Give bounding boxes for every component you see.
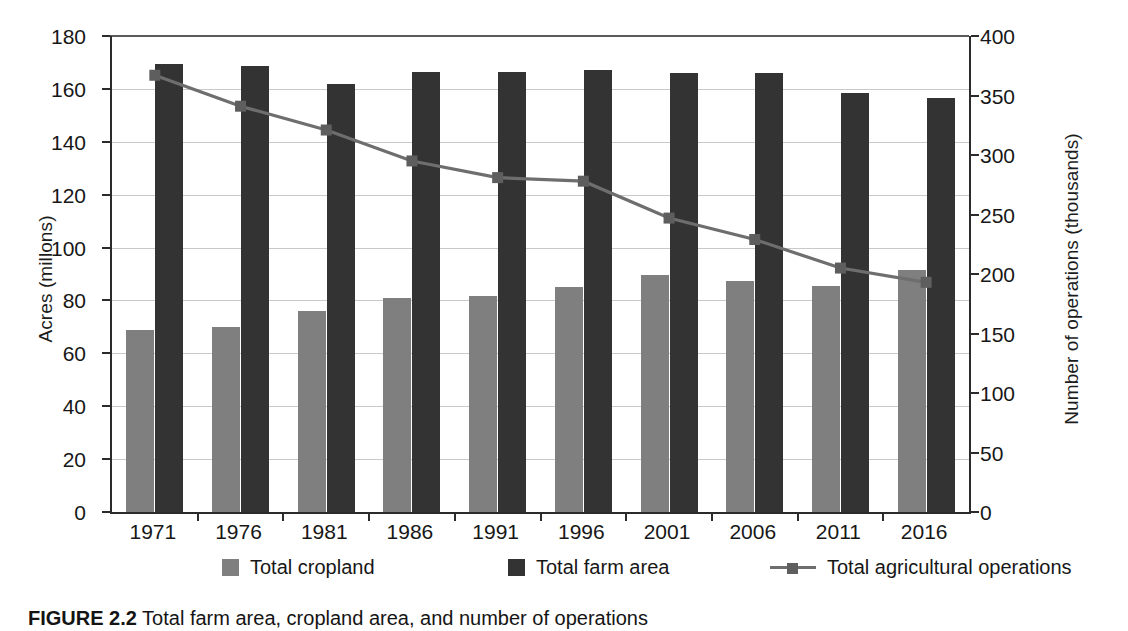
x-axis-label-2016: 2016 [869, 521, 979, 542]
legend-label-operations: Total agricultural operations [827, 557, 1072, 577]
x-tick-mark [625, 512, 627, 521]
bar-total-farm-area-1971 [155, 64, 183, 512]
bar-total-farm-area-1991 [498, 72, 526, 512]
x-tick-mark [711, 512, 713, 521]
left-tick-mark [102, 352, 110, 354]
bar-total-cropland-1971 [126, 330, 154, 512]
left-tick-mark [102, 194, 110, 196]
x-tick-mark [282, 512, 284, 521]
left-tick-label: 140 [0, 131, 86, 152]
bar-total-cropland-2001 [641, 275, 669, 512]
left-tick-mark [102, 405, 110, 407]
legend-label-cropland: Total cropland [250, 557, 375, 577]
left-tick-mark [102, 299, 110, 301]
bar-total-farm-area-2011 [841, 93, 869, 512]
right-tick-label: 50 [980, 442, 1040, 463]
bar-total-cropland-1981 [298, 311, 326, 512]
right-tick-mark [971, 392, 979, 394]
left-tick-mark [102, 458, 110, 460]
left-tick-mark [102, 141, 110, 143]
left-tick-label: 40 [0, 396, 86, 417]
bar-total-farm-area-1996 [584, 70, 612, 512]
right-tick-mark [971, 214, 979, 216]
legend-line-marker-icon-operations [770, 559, 816, 576]
bar-total-cropland-1986 [383, 298, 411, 512]
x-tick-mark [797, 512, 799, 521]
legend-swatch-icon-farm-area [508, 559, 525, 576]
left-tick-label: 180 [0, 26, 86, 47]
left-tick-mark [102, 511, 110, 513]
right-tick-mark [971, 154, 979, 156]
legend-item-total-cropland: Total cropland [222, 557, 375, 577]
x-tick-mark [882, 512, 884, 521]
right-axis-title: Number of operations (thousands) [1061, 79, 1083, 479]
right-tick-mark [971, 95, 979, 97]
left-tick-label: 160 [0, 78, 86, 99]
x-tick-mark [540, 512, 542, 521]
right-tick-label: 150 [980, 323, 1040, 344]
bar-total-cropland-2011 [812, 286, 840, 512]
right-tick-label: 100 [980, 383, 1040, 404]
right-tick-label: 400 [980, 26, 1040, 47]
chart-legend: Total cropland Total farm area Total agr… [110, 553, 970, 583]
right-tick-mark [971, 333, 979, 335]
bar-total-farm-area-2016 [927, 98, 955, 512]
right-tick-mark [971, 511, 979, 513]
left-tick-label: 60 [0, 343, 86, 364]
left-tick-mark [102, 88, 110, 90]
bar-total-cropland-1976 [212, 327, 240, 512]
figure-caption-label: FIGURE 2.2 [28, 607, 137, 629]
right-tick-mark [971, 452, 979, 454]
right-tick-label: 300 [980, 145, 1040, 166]
right-tick-label: 250 [980, 204, 1040, 225]
plot-area [110, 36, 971, 514]
bar-total-farm-area-1976 [241, 66, 269, 512]
bar-total-farm-area-2006 [755, 73, 783, 512]
bar-total-cropland-2016 [898, 270, 926, 512]
bar-total-farm-area-2001 [670, 73, 698, 512]
left-tick-label: 100 [0, 237, 86, 258]
left-tick-mark [102, 247, 110, 249]
bar-total-cropland-1996 [555, 287, 583, 512]
operations-polyline [155, 75, 926, 282]
left-tick-label: 20 [0, 449, 86, 470]
x-tick-mark [368, 512, 370, 521]
right-tick-mark [971, 273, 979, 275]
figure-caption-text: Total farm area, cropland area, and numb… [137, 607, 648, 629]
right-tick-label: 350 [980, 85, 1040, 106]
x-tick-mark [197, 512, 199, 521]
right-tick-mark [971, 35, 979, 37]
legend-swatch-icon-cropland [222, 559, 239, 576]
bar-total-cropland-1991 [469, 296, 497, 512]
legend-item-total-agricultural-operations: Total agricultural operations [770, 557, 1072, 577]
left-tick-label: 120 [0, 184, 86, 205]
figure-caption: FIGURE 2.2 Total farm area, cropland are… [28, 606, 1108, 631]
bar-total-farm-area-1981 [327, 84, 355, 512]
bar-total-cropland-2006 [726, 281, 754, 512]
legend-item-total-farm-area: Total farm area [508, 557, 669, 577]
right-tick-label: 0 [980, 502, 1040, 523]
bar-total-farm-area-1986 [412, 72, 440, 512]
right-tick-label: 200 [980, 264, 1040, 285]
left-tick-mark [102, 35, 110, 37]
legend-label-farm-area: Total farm area [536, 557, 669, 577]
left-tick-label: 0 [0, 502, 86, 523]
x-tick-mark [454, 512, 456, 521]
left-tick-label: 80 [0, 290, 86, 311]
